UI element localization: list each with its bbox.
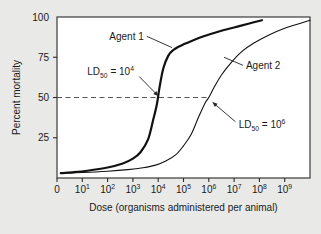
- x-axis-title: Dose (organisms administered per animal): [89, 202, 277, 213]
- x-tick-label: 0: [54, 184, 60, 195]
- y-axis-title: Percent mortality: [11, 60, 22, 135]
- ld50-agent1-label: LD50 = 104: [87, 65, 134, 79]
- y-tick-label: 100: [32, 12, 49, 23]
- ld50-agent2-label: LD50 = 106: [239, 118, 286, 132]
- agent1-label: Agent 1: [109, 31, 144, 42]
- chart-figure: 255075100Percent mortality01011021031041…: [0, 0, 321, 234]
- y-tick-label: 50: [38, 92, 50, 103]
- y-tick-label: 25: [38, 132, 50, 143]
- dose-response-chart: 255075100Percent mortality01011021031041…: [0, 0, 321, 234]
- agent2-label: Agent 2: [246, 60, 281, 71]
- y-tick-label: 75: [38, 52, 50, 63]
